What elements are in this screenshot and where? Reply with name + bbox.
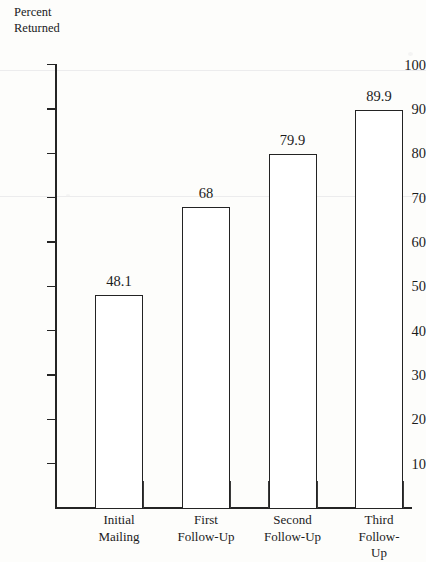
- bar: [95, 295, 143, 508]
- y-axis-tick: [47, 64, 56, 65]
- y-axis-tick: [47, 374, 56, 375]
- y-axis-title: Percent Returned: [14, 4, 60, 36]
- x-axis-separator: [403, 481, 404, 508]
- x-axis-category-label: Second Follow-Up: [264, 512, 321, 545]
- bar: [355, 110, 403, 508]
- bar-value-label: 79.9: [280, 133, 305, 148]
- y-axis-tick-label: 100: [382, 58, 426, 73]
- y-axis-tick: [47, 197, 56, 198]
- bar-value-label: 68: [199, 186, 214, 201]
- bar: [182, 207, 230, 508]
- x-axis-category-label: First Follow-Up: [177, 512, 234, 545]
- y-axis-tick: [47, 108, 56, 109]
- x-axis-category-label: Initial Mailing: [98, 512, 139, 545]
- scan-artifact-speck: [66, 194, 70, 197]
- scan-artifact-line: [0, 70, 426, 71]
- scan-artifact-speck: [408, 52, 413, 56]
- bar-value-label: 48.1: [106, 274, 131, 289]
- x-axis-separator: [143, 481, 144, 508]
- y-axis-tick: [47, 419, 56, 420]
- x-axis-separator: [230, 481, 231, 508]
- x-axis-separator: [317, 481, 318, 508]
- y-axis-tick: [47, 241, 56, 242]
- y-axis-tick: [47, 286, 56, 287]
- y-axis-tick: [47, 463, 56, 464]
- y-axis-tick: [47, 330, 56, 331]
- bar-value-label: 89.9: [366, 89, 391, 104]
- x-axis-category-label: Third Follow-Up: [356, 512, 403, 562]
- y-axis-tick: [47, 153, 56, 154]
- bar: [269, 154, 317, 508]
